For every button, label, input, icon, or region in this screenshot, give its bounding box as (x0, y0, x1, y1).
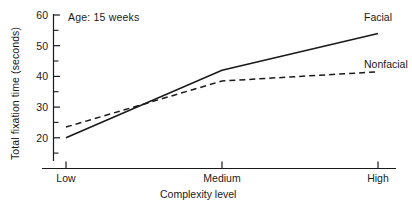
series-label-facial: Facial (364, 12, 392, 23)
chart-annotation: Age: 15 weeks (68, 12, 139, 23)
chart-figure: Total fixation time (seconds) 60 50 40 3… (0, 0, 412, 206)
x-tick-label-low: Low (36, 173, 96, 184)
series-label-nonfacial: Nonfacial (364, 59, 408, 70)
x-tick-label-medium: Medium (192, 173, 252, 184)
y-tick-label-30: 30 (26, 102, 48, 113)
y-axis-major-ticks (54, 15, 61, 138)
series-line-nonfacial (66, 72, 378, 127)
y-tick-label-40: 40 (26, 71, 48, 82)
y-axis-title: Total fixation time (seconds) (10, 27, 21, 160)
x-axis-title: Complexity level (160, 189, 236, 200)
y-tick-label-20: 20 (26, 133, 48, 144)
series-line-facial (66, 33, 378, 137)
y-tick-label-50: 50 (26, 41, 48, 52)
x-axis-ticks (66, 162, 378, 169)
x-tick-label-high: High (348, 173, 408, 184)
y-tick-label-60: 60 (26, 10, 48, 21)
y-axis-minor-ticks (54, 30, 59, 153)
